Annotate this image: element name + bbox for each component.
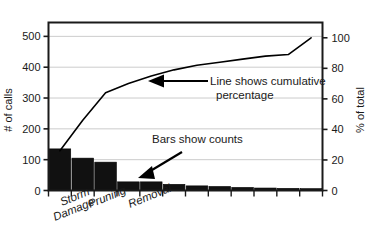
y2-axis-tick-label: 40 — [332, 123, 344, 135]
y2-axis-tick-label: 100 — [332, 32, 350, 44]
y-axis-tick-label: 200 — [22, 123, 40, 135]
y-axis-title: # of calls — [2, 88, 14, 132]
bar — [72, 158, 94, 190]
y-axis-tick-label: 100 — [22, 154, 40, 166]
annotation-text-cumulative-line2: percentage — [216, 89, 274, 101]
chart-canvas: 0100200300400500 020406080100 # of calls… — [0, 0, 375, 248]
annotation-text-bars: Bars show counts — [152, 133, 243, 145]
y-axis-tick-label: 0 — [34, 185, 40, 197]
y-axis-tick-label: 400 — [22, 61, 40, 73]
annotation-text-cumulative-line1: Line shows cumulative — [210, 75, 326, 87]
y-axis-tick-label: 300 — [22, 92, 40, 104]
y-axis-tick-label: 500 — [22, 30, 40, 42]
pareto-chart: 0100200300400500 020406080100 # of calls… — [0, 0, 375, 248]
y2-axis-title: % of total — [354, 87, 366, 133]
y2-axis-tick-label: 20 — [332, 154, 344, 166]
bar — [49, 149, 71, 191]
y2-axis-tick-label: 0 — [332, 185, 338, 197]
bar — [95, 162, 117, 190]
y2-axis-tick-label: 80 — [332, 62, 344, 74]
y2-axis-tick-label: 60 — [332, 93, 344, 105]
